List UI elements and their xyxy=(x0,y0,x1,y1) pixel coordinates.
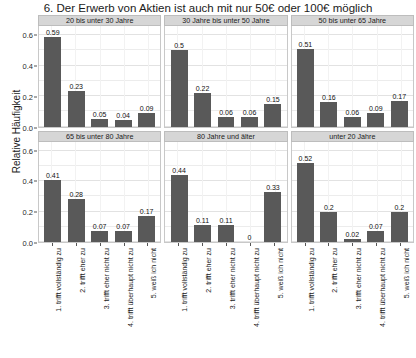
bar-slot: 0.52 xyxy=(294,142,317,243)
bar-value-label: 0.23 xyxy=(69,83,83,90)
facet-strip-label: 50 bis unter 65 Jahre xyxy=(291,15,414,26)
y-axis-tick-mark xyxy=(34,150,37,151)
bar-value-label: 0.06 xyxy=(346,109,360,116)
bar xyxy=(171,175,188,242)
x-axis-tick-label: 4. trifft überhaupt nicht zu xyxy=(127,248,134,327)
facet-strip-label: 30 Jahre bis unter 50 Jahre xyxy=(164,15,287,26)
bar xyxy=(194,225,211,242)
bar xyxy=(320,212,337,242)
x-axis-tick-label: 4. trifft überhaupt nicht zu xyxy=(253,248,260,327)
bar-slot: 0.33 xyxy=(261,142,284,243)
bar-value-label: 0.09 xyxy=(140,105,154,112)
x-axis-tick: 5. weiß ich nicht xyxy=(262,243,286,353)
bar-slot: 0.51 xyxy=(294,26,317,127)
x-axis-tick: 4. trifft überhaupt nicht zu xyxy=(112,243,136,353)
bar xyxy=(320,102,337,126)
bar xyxy=(115,231,132,242)
facet-strip-label: 80 Jahre und älter xyxy=(164,131,287,142)
x-axis-tick-label: 1. trifft vollständig zu xyxy=(55,248,62,312)
bar xyxy=(44,180,61,242)
bar xyxy=(138,113,155,127)
x-axis-tick: 1. trifft vollständig zu xyxy=(40,243,64,353)
bar-value-label: 0.41 xyxy=(46,172,60,179)
bar-value-label: 0.09 xyxy=(369,105,383,112)
facet-panel: 80 Jahre und älter0.440.110.1100.33 xyxy=(164,131,287,244)
bar-value-label: 0.07 xyxy=(93,223,107,230)
y-axis-tick-label: 0.4 xyxy=(23,61,33,70)
bar-value-label: 0.17 xyxy=(392,93,406,100)
x-axis-tick-mark xyxy=(52,243,53,246)
bar xyxy=(297,163,314,242)
y-axis-tick-label: 0.4 xyxy=(23,177,33,186)
x-axis-tick-mark xyxy=(178,243,179,246)
bar-value-label: 0.07 xyxy=(116,223,130,230)
facet-plot-area: 0.590.230.050.040.09 xyxy=(38,26,161,128)
bar-slot: 0.2 xyxy=(317,142,340,243)
bar-slot: 0.02 xyxy=(341,142,364,243)
x-axis-tick: 2. trifft eher zu xyxy=(190,243,214,353)
bar xyxy=(218,225,235,242)
x-axis-tick-mark xyxy=(147,243,148,246)
bar-value-label: 0.2 xyxy=(394,204,404,211)
bar-slot: 0.2 xyxy=(388,142,411,243)
bar-value-label: 0.33 xyxy=(266,184,280,191)
x-axis-tick-mark xyxy=(124,243,125,246)
x-axis-tick-mark xyxy=(352,243,353,246)
x-axis-tick-label: 5. weiß ich nicht xyxy=(277,248,284,298)
x-axis-group: 1. trifft vollständig zu2. trifft eher z… xyxy=(291,243,414,355)
bar-value-label: 0.22 xyxy=(196,85,210,92)
bar xyxy=(344,117,361,126)
x-axis-tick: 5. weiß ich nicht xyxy=(135,243,159,353)
bar-value-label: 0.07 xyxy=(369,223,383,230)
bar-slot: 0.17 xyxy=(135,142,158,243)
y-axis-tick-label: 0.0 xyxy=(23,239,33,248)
facet-panel: 65 bis unter 80 Jahre0.410.280.070.070.1… xyxy=(38,131,161,244)
bar-value-label: 0.5 xyxy=(174,42,184,49)
bar-value-label: 0.06 xyxy=(243,109,257,116)
facet-strip-label: 65 bis unter 80 Jahre xyxy=(38,131,161,142)
bar-value-label: 0.02 xyxy=(346,231,360,238)
y-axis-tick-label: 0.6 xyxy=(23,146,33,155)
bar-value-label: 0.2 xyxy=(324,204,334,211)
bar-value-label: 0.11 xyxy=(196,217,209,224)
x-axis-tick: 3. trifft eher nicht zu xyxy=(88,243,112,353)
bar-slot: 0.44 xyxy=(167,142,190,243)
bar xyxy=(91,231,108,242)
x-axis-tick-label: 5. weiß ich nicht xyxy=(403,248,410,298)
bar-slot: 0.07 xyxy=(364,142,387,243)
bar xyxy=(44,37,61,127)
facet-strip-label: unter 20 Jahre xyxy=(291,131,414,142)
x-axis-tick-mark xyxy=(274,243,275,246)
x-axis-tick-label: 3. trifft eher nicht zu xyxy=(103,248,110,309)
x-axis-tick-mark xyxy=(305,243,306,246)
x-axis-tick: 4. trifft überhaupt nicht zu xyxy=(364,243,388,353)
bar-series: 0.50.220.060.060.15 xyxy=(165,26,286,127)
x-axis-tick: 3. trifft eher nicht zu xyxy=(214,243,238,353)
chart-figure: 6. Der Erwerb von Aktien ist auch mit nu… xyxy=(0,0,416,358)
y-axis-tick-mark xyxy=(34,212,37,213)
bar-value-label: 0.05 xyxy=(93,111,107,118)
x-axis-tick-label: 5. weiß ich nicht xyxy=(150,248,157,298)
bar-series: 0.520.20.020.070.2 xyxy=(292,142,413,243)
y-axis: 0.00.20.40.60.00.20.40.6 xyxy=(0,15,38,243)
x-axis-tick-label: 2. trifft eher zu xyxy=(205,248,212,293)
bar-slot: 0.05 xyxy=(88,26,111,127)
bar-value-label: 0 xyxy=(248,234,252,241)
x-axis-tick: 4. trifft überhaupt nicht zu xyxy=(238,243,262,353)
bar xyxy=(115,120,132,126)
x-axis-tick: 1. trifft vollständig zu xyxy=(166,243,190,353)
bar xyxy=(194,93,211,126)
facet-plot-area: 0.510.160.060.090.17 xyxy=(291,26,414,128)
bar-slot: 0.28 xyxy=(64,142,87,243)
x-axis-tick-mark xyxy=(100,243,101,246)
x-axis-tick-mark xyxy=(400,243,401,246)
bar xyxy=(344,239,361,242)
x-axis-tick-label: 3. trifft eher nicht zu xyxy=(355,248,362,309)
facet-plot-area: 0.50.220.060.060.15 xyxy=(164,26,287,128)
bar-value-label: 0.04 xyxy=(116,112,130,119)
x-axis-tick-mark xyxy=(76,243,77,246)
bar-value-label: 0.15 xyxy=(266,96,280,103)
bar-slot: 0.06 xyxy=(214,26,237,127)
x-axis-tick: 2. trifft eher zu xyxy=(64,243,88,353)
facet-panel: unter 20 Jahre0.520.20.020.070.2 xyxy=(291,131,414,244)
